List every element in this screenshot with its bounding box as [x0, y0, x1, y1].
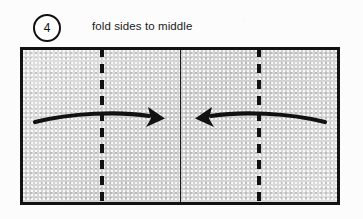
- step-instruction-caption: fold sides to middle: [92, 20, 192, 32]
- left-fold-arrow-shaft: [35, 113, 149, 122]
- origami-step-diagram: 4 fold sides to middle: [0, 0, 363, 219]
- right-fold-arrow-head: [195, 107, 214, 127]
- left-fold-line-dashed: [100, 48, 104, 204]
- paper-rectangle: [20, 47, 340, 205]
- left-fold-arrow-head: [146, 107, 165, 127]
- step-number-badge: 4: [33, 14, 61, 42]
- paper-surface: [23, 50, 337, 202]
- right-fold-line-dashed: [257, 48, 261, 204]
- right-fold-arrow-shaft: [211, 113, 325, 122]
- center-crease-line-solid: [180, 50, 181, 202]
- step-number-label: 4: [35, 16, 59, 40]
